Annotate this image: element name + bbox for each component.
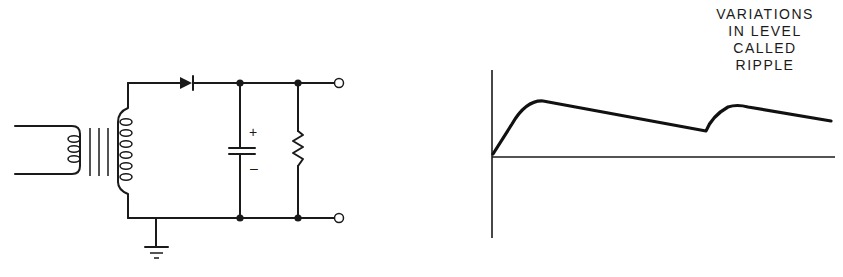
transformer-secondary bbox=[118, 83, 132, 218]
capacitor-negative-label: – bbox=[250, 161, 258, 175]
primary-coil-icon bbox=[68, 136, 80, 162]
junction-dot bbox=[294, 79, 301, 86]
junction-dot bbox=[236, 214, 243, 221]
junction-dot bbox=[236, 79, 243, 86]
ripple-annotation: VARIATIONS IN LEVEL CALLED RIPPLE bbox=[690, 6, 840, 74]
junction-dot bbox=[294, 214, 301, 221]
primary-winding-wire bbox=[15, 126, 80, 174]
annotation-line-1: VARIATIONS bbox=[690, 6, 840, 23]
transformer-primary bbox=[15, 126, 80, 174]
output-terminal-positive bbox=[335, 79, 344, 88]
annotation-line-2: IN LEVEL bbox=[690, 23, 840, 40]
secondary-winding-wire bbox=[118, 83, 128, 218]
output-terminal-negative bbox=[335, 214, 344, 223]
capacitor-icon bbox=[229, 83, 255, 218]
transformer-core-icon bbox=[90, 128, 108, 176]
annotation-line-3: CALLED bbox=[690, 40, 840, 57]
capacitor-positive-label: + bbox=[249, 125, 257, 139]
secondary-coil-icon bbox=[120, 119, 132, 180]
diode-icon bbox=[180, 76, 193, 90]
resistor-icon bbox=[293, 83, 303, 218]
ripple-waveform bbox=[493, 101, 831, 154]
ground-icon bbox=[145, 218, 168, 258]
annotation-line-4: RIPPLE bbox=[690, 57, 840, 74]
ripple-graph bbox=[492, 70, 835, 238]
